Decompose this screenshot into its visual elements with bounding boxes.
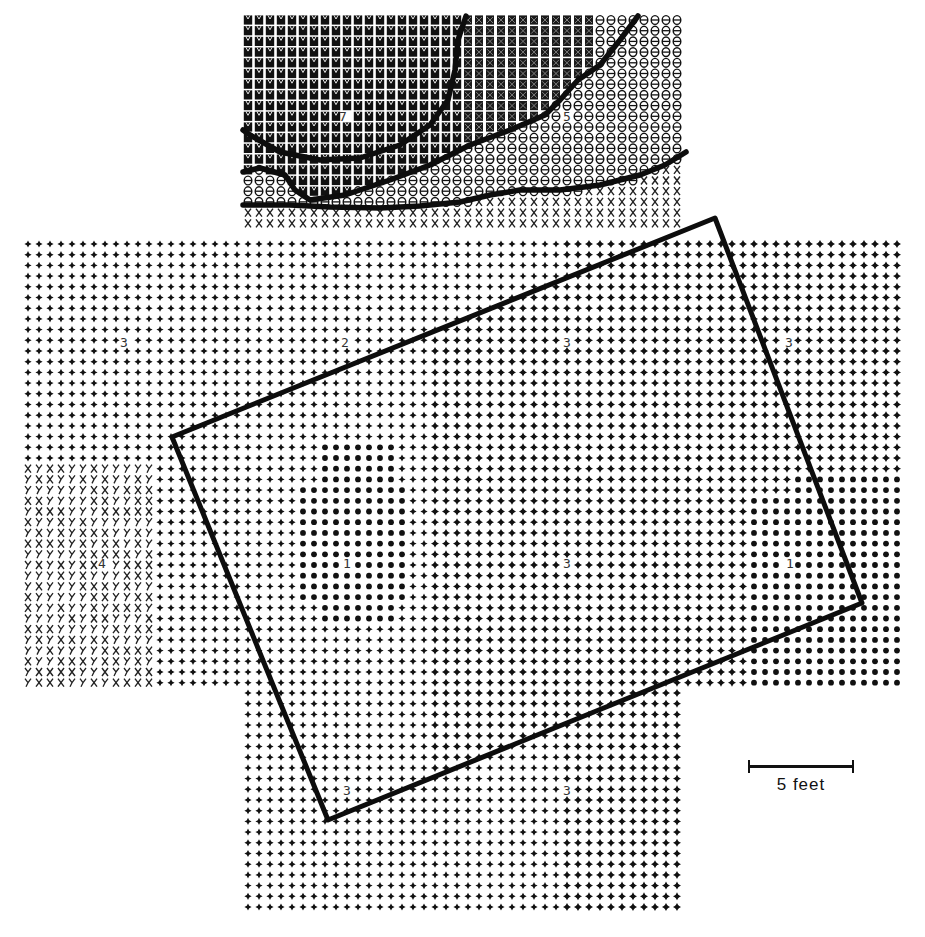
grid-symbol-plus bbox=[409, 433, 416, 440]
grid-symbol-dot bbox=[894, 498, 900, 504]
grid-symbol-plus bbox=[310, 262, 317, 269]
grid-symbol-xdense bbox=[563, 58, 571, 67]
grid-symbol-star bbox=[552, 475, 560, 483]
grid-symbol-theta bbox=[475, 165, 483, 174]
grid-symbol-star bbox=[827, 336, 835, 344]
grid-symbol-plus bbox=[398, 454, 405, 461]
grid-symbol-dot bbox=[894, 648, 900, 654]
grid-symbol-star bbox=[849, 283, 857, 291]
grid-symbol-dot bbox=[751, 584, 757, 590]
grid-symbol-star bbox=[442, 732, 450, 740]
grid-symbol-xdense bbox=[530, 69, 538, 78]
grid-symbol-dot bbox=[883, 616, 889, 622]
grid-symbol-star bbox=[530, 657, 538, 665]
grid-symbol-y bbox=[135, 582, 141, 590]
grid-symbol-plus bbox=[376, 679, 383, 686]
grid-symbol-star bbox=[607, 636, 615, 644]
grid-symbol-plus bbox=[299, 732, 306, 739]
grid-symbol-plus bbox=[123, 401, 130, 408]
grid-symbol-plus bbox=[387, 700, 394, 707]
grid-symbol-plus bbox=[266, 369, 273, 376]
grid-symbol-plus bbox=[343, 390, 350, 397]
grid-symbol-star bbox=[640, 860, 648, 868]
grid-symbol-plus bbox=[266, 315, 273, 322]
grid-symbol-dot bbox=[366, 541, 372, 547]
grid-symbol-star bbox=[431, 625, 439, 633]
grid-symbol-star bbox=[640, 315, 648, 323]
grid-symbol-star bbox=[717, 604, 725, 612]
grid-symbol-star bbox=[684, 572, 692, 580]
grid-symbol-xdense bbox=[486, 90, 494, 99]
grid-symbol-star bbox=[739, 315, 747, 323]
grid-symbol-plus bbox=[310, 700, 317, 707]
grid-symbol-star bbox=[629, 753, 637, 761]
grid-symbol-theta bbox=[497, 144, 505, 153]
grid-symbol-theta bbox=[244, 176, 252, 185]
grid-symbol-y bbox=[25, 572, 31, 580]
grid-symbol-star bbox=[519, 497, 527, 505]
grid-symbol-theta bbox=[574, 123, 582, 132]
grid-symbol-dot bbox=[322, 584, 328, 590]
grid-symbol-dot bbox=[762, 616, 768, 622]
grid-symbol-theta bbox=[255, 187, 263, 196]
grid-symbol-star bbox=[475, 422, 483, 430]
grid-symbol-plus bbox=[376, 882, 383, 889]
grid-symbol-star bbox=[717, 615, 725, 623]
grid-symbol-star bbox=[695, 379, 703, 387]
grid-symbol-star bbox=[651, 272, 659, 280]
grid-symbol-plus bbox=[266, 636, 273, 643]
grid-symbol-dense bbox=[288, 122, 296, 131]
grid-symbol-star bbox=[662, 251, 670, 259]
grid-symbol-star bbox=[695, 540, 703, 548]
grid-symbol-xdense bbox=[486, 112, 494, 121]
grid-symbol-plus bbox=[233, 433, 240, 440]
grid-symbol-y bbox=[58, 475, 64, 483]
grid-symbol-plus bbox=[266, 754, 273, 761]
grid-symbol-y bbox=[80, 593, 86, 601]
grid-symbol-star bbox=[673, 390, 681, 398]
grid-symbol-plus bbox=[255, 465, 262, 472]
grid-symbol-theta bbox=[508, 165, 516, 174]
grid-symbol-y bbox=[47, 550, 53, 558]
grid-symbol-plus bbox=[101, 444, 108, 451]
grid-symbol-plus bbox=[24, 273, 31, 280]
grid-symbol-dot bbox=[388, 444, 394, 450]
grid-symbol-dense bbox=[244, 15, 252, 24]
grid-symbol-theta bbox=[574, 101, 582, 110]
grid-symbol-star bbox=[640, 582, 648, 590]
grid-symbol-plus bbox=[288, 829, 295, 836]
grid-symbol-dot bbox=[311, 509, 317, 515]
grid-symbol-star bbox=[497, 315, 505, 323]
grid-symbol-theta bbox=[618, 144, 626, 153]
grid-symbol-plus bbox=[475, 893, 482, 900]
grid-symbol-star bbox=[475, 550, 483, 558]
grid-symbol-star bbox=[706, 486, 714, 494]
grid-symbol-y bbox=[69, 679, 75, 687]
grid-symbol-plus bbox=[332, 422, 339, 429]
grid-symbol-dot bbox=[872, 487, 878, 493]
grid-symbol-star bbox=[508, 326, 516, 334]
grid-symbol-dot bbox=[894, 519, 900, 525]
grid-symbol-dense bbox=[255, 48, 263, 57]
grid-symbol-star bbox=[607, 508, 615, 516]
grid-symbol-star bbox=[761, 251, 769, 259]
grid-symbol-plus bbox=[409, 711, 416, 718]
grid-symbol-dot bbox=[817, 594, 823, 600]
grid-symbol-star bbox=[475, 732, 483, 740]
grid-symbol-xdense bbox=[497, 90, 505, 99]
grid-symbol-star bbox=[849, 272, 857, 280]
grid-symbol-plus bbox=[508, 882, 515, 889]
grid-symbol-plus bbox=[288, 519, 295, 526]
grid-symbol-dot bbox=[850, 637, 856, 643]
grid-symbol-plus bbox=[288, 422, 295, 429]
grid-symbol-star bbox=[750, 251, 758, 259]
grid-symbol-dot bbox=[751, 530, 757, 536]
grid-symbol-star bbox=[563, 839, 571, 847]
grid-symbol-theta bbox=[508, 133, 516, 142]
grid-symbol-star bbox=[717, 272, 725, 280]
grid-symbol-y bbox=[102, 465, 108, 473]
grid-symbol-plus bbox=[310, 626, 317, 633]
grid-symbol-x bbox=[91, 604, 97, 612]
grid-symbol-plus bbox=[277, 422, 284, 429]
grid-symbol-dense bbox=[387, 58, 395, 67]
